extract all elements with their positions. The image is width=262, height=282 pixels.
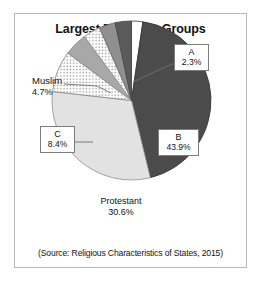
slice-callout-b-name: B	[162, 132, 195, 142]
slice-callout-c-name: C	[44, 129, 71, 139]
slice-label-protestant-name: Protestant	[90, 196, 152, 207]
slice-callout-a[interactable]: A 2.3%	[174, 44, 209, 71]
slice-callout-c[interactable]: C 8.4%	[40, 126, 75, 153]
slice-callout-b-value: 43.9%	[162, 142, 195, 152]
source-note: (Source: Religious Characteristics of St…	[15, 248, 246, 258]
slice-callout-c-value: 8.4%	[44, 139, 71, 149]
slice-label-muslim-value: 4.7%	[32, 87, 62, 98]
chart-figure: Largest Religious Groups (Rwanda) A 2.3%…	[14, 13, 247, 268]
slice-callout-b[interactable]: B 43.9%	[158, 129, 199, 156]
slice-label-protestant-value: 30.6%	[90, 207, 152, 218]
slice-label-muslim: Muslim 4.7%	[32, 76, 62, 97]
slice-callout-a-name: A	[178, 47, 205, 57]
slice-callout-a-value: 2.3%	[178, 57, 205, 67]
slice-label-protestant: Protestant 30.6%	[90, 196, 152, 217]
slice-label-muslim-name: Muslim	[32, 76, 62, 87]
